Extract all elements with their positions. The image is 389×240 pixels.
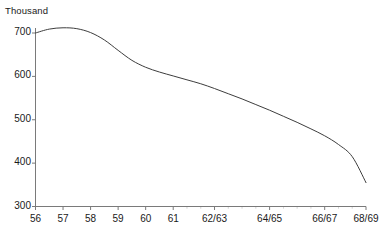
x-axis-ticks — [36, 207, 367, 211]
y-tick-label: 300 — [2, 200, 31, 211]
y-tick-label: 400 — [2, 156, 31, 167]
x-tick-label: 56 — [30, 213, 41, 224]
x-tick-label: 59 — [113, 213, 124, 224]
y-tick-label: 600 — [2, 69, 31, 80]
x-tick-label: 57 — [57, 213, 68, 224]
data-series-line — [36, 28, 367, 183]
y-tick-label: 700 — [2, 26, 31, 37]
x-tick-label: 64/65 — [257, 213, 282, 224]
y-tick-label: 500 — [2, 113, 31, 124]
y-axis-ticks — [32, 33, 36, 207]
axis-lines — [35, 28, 366, 207]
x-tick-label: 66/67 — [312, 213, 337, 224]
plot-area — [0, 0, 389, 240]
x-tick-label: 58 — [85, 213, 96, 224]
line-chart: Thousand 300400500600700 56575859606162/… — [0, 0, 389, 240]
x-tick-label: 60 — [140, 213, 151, 224]
x-tick-label: 61 — [168, 213, 179, 224]
x-tick-label: 68/69 — [353, 213, 378, 224]
x-tick-label: 62/63 — [202, 213, 227, 224]
